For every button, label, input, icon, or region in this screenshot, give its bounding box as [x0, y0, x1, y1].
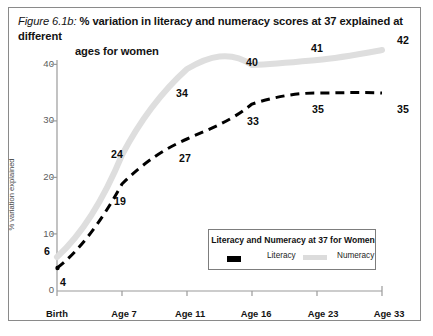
data-label-literacy-age33: 35: [386, 103, 420, 115]
figure-title-line1: % variation in literacy and numeracy sco…: [18, 15, 403, 42]
legend-label-literacy: Literacy: [267, 251, 296, 260]
figure-panel: Figure 6.1b: % variation in literacy and…: [8, 7, 421, 321]
y-axis-title: % variation explained: [7, 140, 16, 250]
data-label-literacy-age7: 19: [103, 195, 137, 207]
y-tick-label-10: 10: [28, 228, 54, 239]
legend-swatch-literacy: [227, 256, 261, 259]
y-tick-label-20: 20: [28, 171, 54, 182]
data-label-literacy-birth: 4: [46, 276, 80, 288]
legend-title: Literacy and Numeracy at 37 for Women: [209, 235, 377, 245]
figure-number: Figure 6.1b:: [18, 15, 77, 27]
x-tick-label-age16: Age 16: [221, 308, 291, 319]
data-label-numeracy-birth: 6: [30, 245, 64, 257]
data-label-literacy-age11: 27: [168, 152, 202, 164]
data-label-numeracy-age7: 24: [100, 148, 134, 160]
figure-title: Figure 6.1b: % variation in literacy and…: [18, 14, 414, 59]
x-tick-label-age33: Age 33: [354, 308, 424, 319]
data-label-numeracy-age33: 42: [386, 34, 420, 46]
data-label-numeracy-age16: 40: [235, 56, 269, 68]
x-tick-label-age23: Age 23: [288, 308, 358, 319]
legend-label-numeracy: Numeracy: [337, 251, 374, 260]
x-tick-label-age7: Age 7: [89, 308, 159, 319]
data-label-numeracy-age23: 41: [300, 42, 334, 54]
data-label-literacy-age23: 35: [301, 103, 335, 115]
y-tick-label-30: 30: [28, 114, 54, 125]
figure-title-line2: ages for women: [18, 44, 414, 59]
x-tick-label-age11: Age 11: [155, 308, 225, 319]
x-tick-label-birth: Birth: [22, 308, 92, 319]
data-label-literacy-age16: 33: [236, 115, 270, 127]
chart-legend: Literacy and Numeracy at 37 for Women Li…: [208, 229, 376, 270]
y-tick-label-40: 40: [28, 58, 54, 69]
legend-swatch-numeracy: [303, 255, 327, 260]
data-label-numeracy-age11: 34: [165, 87, 199, 99]
